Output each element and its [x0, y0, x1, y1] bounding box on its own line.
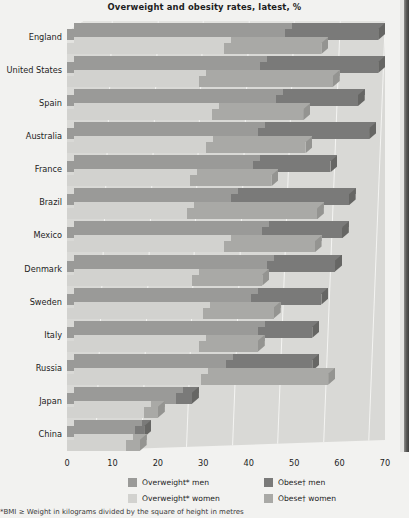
- segment-overweight-men-top-face: [74, 288, 258, 294]
- segment-overweight-women-top-face: [74, 269, 199, 275]
- segment-overweight-women: [67, 241, 224, 252]
- segment-obese-women: [199, 76, 333, 87]
- segment-obese-men: [258, 327, 313, 338]
- segment-overweight-men-top-face: [74, 23, 292, 29]
- segment-obese-women-top-face: [231, 37, 329, 43]
- x-tick-50: 50: [289, 458, 299, 468]
- segment-overweight-women-top-face: [74, 434, 133, 440]
- bar-row: [67, 21, 385, 47]
- footnote: *BMI ≥ Weight in kilograms divided by th…: [0, 508, 409, 516]
- legend-item-obese-men[interactable]: Obese† men: [264, 478, 325, 487]
- segment-overweight-women-top-face: [74, 368, 208, 374]
- category-label-denmark: Denmark: [0, 264, 62, 274]
- x-tick-70: 70: [380, 458, 390, 468]
- x-tick-0: 0: [64, 458, 69, 468]
- segment-overweight-women: [67, 374, 201, 385]
- segment-obese-men-top-face: [265, 321, 320, 327]
- segment-obese-women: [201, 374, 328, 385]
- segment-obese-men-top-face: [238, 188, 356, 194]
- segment-overweight-men-top-face: [74, 321, 265, 327]
- legend-item-overweight-women[interactable]: Overweight* women: [128, 494, 220, 503]
- segment-overweight-women: [67, 43, 224, 54]
- category-label-mexico: Mexico: [0, 230, 62, 240]
- segment-obese-women: [192, 275, 262, 286]
- segment-overweight-men-top-face: [74, 122, 265, 128]
- segment-obese-women-top-face: [219, 103, 310, 109]
- category-label-australia: Australia: [0, 131, 62, 141]
- segment-obese-men-top-face: [233, 354, 319, 360]
- segment-overweight-women: [67, 407, 144, 418]
- legend-swatch-obese-men: [264, 478, 273, 487]
- bar-row: [67, 54, 385, 80]
- legend-label-overweight-men: Overweight* men: [142, 478, 209, 487]
- segment-overweight-women: [67, 308, 203, 319]
- legend-swatch-obese-women: [264, 494, 273, 503]
- segment-overweight-women: [67, 109, 212, 120]
- x-tick-10: 10: [107, 458, 117, 468]
- segment-overweight-women: [67, 175, 190, 186]
- legend-swatch-overweight-men: [128, 478, 137, 487]
- bar-row: [67, 385, 385, 411]
- bar-row: [67, 87, 385, 113]
- segment-overweight-women: [67, 76, 199, 87]
- segment-overweight-women-top-face: [74, 136, 213, 142]
- segment-overweight-men-top-face: [74, 255, 274, 261]
- category-label-sweden: Sweden: [0, 297, 62, 307]
- x-tick-60: 60: [334, 458, 344, 468]
- x-tick-30: 30: [198, 458, 208, 468]
- category-label-brazil: Brazil: [0, 197, 62, 207]
- segment-overweight-women: [67, 142, 206, 153]
- legend-label-overweight-women: Overweight* women: [142, 494, 220, 503]
- segment-obese-men-top-face: [258, 288, 328, 294]
- legend-label-obese-women: Obese† women: [278, 494, 336, 503]
- category-label-japan: Japan: [0, 396, 62, 406]
- segment-obese-men-top-face: [260, 155, 337, 161]
- segment-obese-women: [126, 440, 140, 451]
- bar-row: [67, 286, 385, 312]
- segment-obese-men-top-face: [265, 122, 376, 128]
- segment-obese-men: [176, 393, 192, 404]
- segment-obese-women-top-face: [197, 169, 279, 175]
- category-label-england: England: [0, 32, 62, 42]
- x-tick-40: 40: [243, 458, 253, 468]
- bar-row: [67, 352, 385, 378]
- category-label-spain: Spain: [0, 98, 62, 108]
- category-label-united-states: United States: [0, 65, 62, 75]
- segment-obese-women-top-face: [210, 302, 280, 308]
- bar-row: [67, 219, 385, 245]
- segment-obese-women: [144, 407, 158, 418]
- bar-row: [67, 319, 385, 345]
- segment-obese-women: [224, 241, 315, 252]
- category-label-china: China: [0, 429, 62, 439]
- page-edge-dark: [404, 0, 409, 452]
- legend-item-obese-women[interactable]: Obese† women: [264, 494, 336, 503]
- segment-obese-men-top-face: [274, 255, 342, 261]
- bar-row: [67, 120, 385, 146]
- segment-overweight-women: [67, 341, 199, 352]
- segment-obese-women: [187, 208, 316, 219]
- bar-row: [67, 253, 385, 279]
- segment-obese-women-top-face: [206, 70, 340, 76]
- segment-obese-men: [267, 261, 335, 272]
- segment-obese-women-top-face: [206, 335, 265, 341]
- chart-page: Overweight and obesity rates, latest, % …: [0, 0, 409, 518]
- segment-obese-men-top-face: [283, 89, 365, 95]
- segment-overweight-women-top-face: [74, 37, 231, 43]
- segment-overweight-women-top-face: [74, 103, 219, 109]
- segment-overweight-women-top-face: [74, 302, 210, 308]
- category-label-france: France: [0, 164, 62, 174]
- segment-overweight-women: [67, 440, 126, 451]
- segment-obese-men-top-face: [269, 221, 349, 227]
- segment-overweight-women: [67, 275, 192, 286]
- segment-overweight-men-top-face: [74, 56, 267, 62]
- segment-obese-women: [190, 175, 272, 186]
- segment-obese-women-top-face: [213, 136, 313, 142]
- segment-overweight-men-top-face: [74, 188, 238, 194]
- chart-title: Overweight and obesity rates, latest, %: [0, 2, 409, 12]
- segment-overweight-women: [67, 208, 187, 219]
- segment-overweight-men-top-face: [74, 155, 260, 161]
- legend-label-obese-men: Obese† men: [278, 478, 325, 487]
- legend-item-overweight-men[interactable]: Overweight* men: [128, 478, 209, 487]
- segment-obese-women-top-face: [231, 235, 322, 241]
- segment-overweight-women-top-face: [74, 202, 194, 208]
